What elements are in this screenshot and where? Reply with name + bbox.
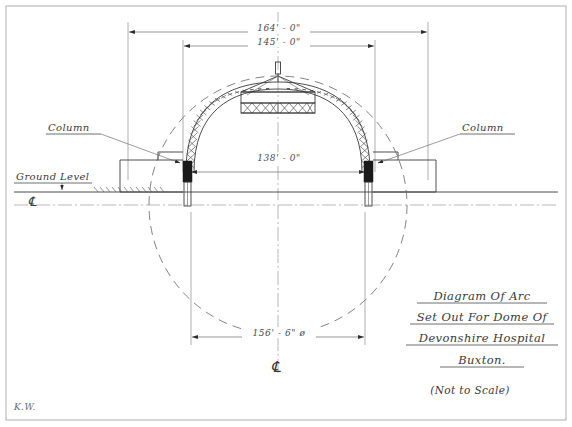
ground-level-label: Ground Level xyxy=(16,171,89,182)
title-line-2: Set Out For Dome Of xyxy=(417,310,549,324)
centerline-symbol-left: ℄ xyxy=(28,194,37,209)
signature-initials: K.W. xyxy=(13,402,36,412)
column-right-label: Column xyxy=(462,122,504,133)
column-right-shaft xyxy=(364,161,373,182)
dimension-dome-span: 145' - 0" xyxy=(257,37,301,47)
column-right-leader xyxy=(378,134,460,163)
dimension-overall-width: 164' - 0" xyxy=(257,23,301,33)
column-left-shaft xyxy=(183,161,192,182)
foundation-plinth-right xyxy=(373,152,436,192)
column-left-label: Column xyxy=(48,122,90,133)
dimension-springing-width: 138' - 0" xyxy=(257,153,301,163)
title-line-1: Diagram Of Arc xyxy=(432,289,530,303)
not-to-scale-note: (Not to Scale) xyxy=(430,384,510,396)
centerline-symbol-bottom: ℄ xyxy=(271,358,281,376)
dimension-setting-out-circle: 156' - 6" ø xyxy=(252,328,305,338)
foundation-plinth-left xyxy=(120,152,183,192)
ground-hatch-icon xyxy=(94,187,164,192)
technical-drawing-canvas: 164' - 0" 145' - 0" xyxy=(0,0,572,427)
title-line-4: Buxton. xyxy=(457,353,506,367)
drawing-sheet: 164' - 0" 145' - 0" xyxy=(0,0,572,427)
column-left-leader xyxy=(101,134,180,163)
title-line-3: Devonshire Hospital xyxy=(418,331,545,345)
